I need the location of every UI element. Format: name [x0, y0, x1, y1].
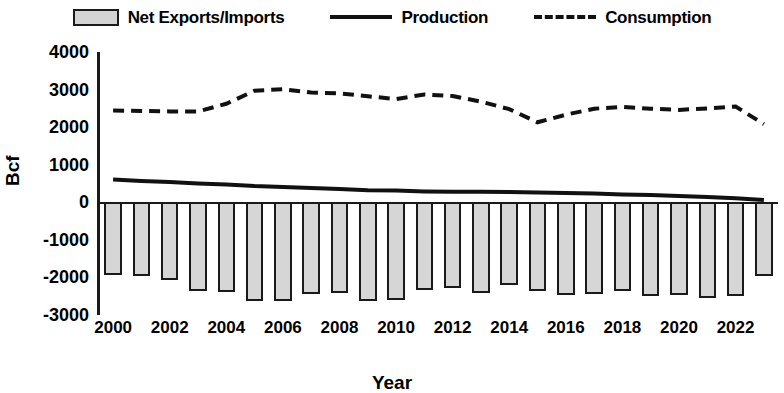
bar-series-net-exports-imports	[0, 34, 784, 334]
dashed-line-icon	[534, 15, 596, 19]
bar-2020	[670, 202, 688, 295]
bar-2014	[500, 202, 518, 284]
legend-item-consumption: Consumption	[534, 9, 711, 26]
bar-2004	[218, 202, 236, 291]
legend-label-net-exports-imports: Net Exports/Imports	[128, 9, 285, 26]
bar-2002	[161, 202, 179, 279]
bar-2021	[699, 202, 717, 298]
bar-2001	[133, 202, 151, 276]
bar-2016	[557, 202, 575, 295]
bar-2012	[444, 202, 462, 288]
bar-2013	[472, 202, 490, 293]
zero-baseline	[97, 202, 778, 204]
bar-2023	[755, 202, 773, 275]
bar-2022	[727, 202, 745, 296]
legend-label-production: Production	[401, 9, 488, 26]
bar-swatch-icon	[73, 9, 119, 26]
x-axis-label: Year	[0, 372, 784, 393]
legend-item-production: Production	[330, 9, 488, 26]
bar-2009	[359, 202, 377, 300]
bar-2010	[387, 202, 405, 300]
bar-2015	[529, 202, 547, 290]
chart-legend: Net Exports/Imports Production Consumpti…	[0, 0, 784, 34]
bar-2019	[642, 202, 660, 296]
plot-area: Bcf Year 40003000200010000-1000-2000-300…	[0, 34, 784, 387]
bar-2000	[104, 202, 122, 275]
bar-2008	[331, 202, 349, 293]
legend-item-net-exports-imports: Net Exports/Imports	[73, 9, 285, 26]
legend-label-consumption: Consumption	[605, 9, 711, 26]
bar-2018	[614, 202, 632, 291]
bar-2003	[189, 202, 207, 290]
bar-2005	[246, 202, 264, 301]
bar-2017	[585, 202, 603, 293]
bar-2007	[302, 202, 320, 294]
bar-2006	[274, 202, 292, 301]
solid-line-icon	[330, 15, 392, 19]
bar-2011	[416, 202, 434, 290]
